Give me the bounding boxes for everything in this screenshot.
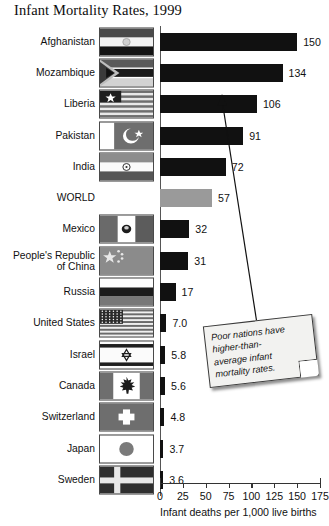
flag-japan-icon bbox=[99, 434, 154, 463]
row-label: Canada bbox=[0, 380, 95, 391]
x-axis-label: Infant deaths per 1,000 live births bbox=[160, 506, 317, 518]
flag-afghanistan-icon bbox=[99, 27, 154, 56]
row-label: Mozambique bbox=[0, 67, 95, 78]
bar-value-label: 72 bbox=[232, 161, 244, 173]
flag-china-icon bbox=[99, 246, 154, 275]
axis-tick bbox=[297, 483, 298, 488]
axis-tick-label: 100 bbox=[243, 490, 261, 502]
bar-value-label: 5.8 bbox=[171, 349, 186, 361]
row-label: Japan bbox=[0, 443, 95, 454]
row-label: Sweden bbox=[0, 474, 95, 485]
flag-united-states-icon bbox=[99, 309, 154, 338]
bar bbox=[160, 408, 164, 426]
row-label: United States bbox=[0, 318, 95, 329]
bar-value-label: 57 bbox=[218, 192, 230, 204]
chart-row: Liberia106 bbox=[0, 89, 326, 120]
flag-liberia-icon bbox=[99, 90, 154, 119]
bar bbox=[160, 158, 226, 176]
chart-row: Pakistan91 bbox=[0, 120, 326, 151]
bar-value-label: 106 bbox=[263, 98, 281, 110]
row-label: Switzerland bbox=[0, 412, 95, 423]
flag-switzerland-icon bbox=[99, 403, 154, 432]
bar-value-label: 134 bbox=[289, 67, 307, 79]
row-label: Liberia bbox=[0, 99, 95, 110]
axis-tick bbox=[251, 483, 252, 488]
axis-tick bbox=[229, 483, 230, 488]
flag-mozambique-icon bbox=[99, 58, 154, 87]
flag-israel-icon bbox=[99, 340, 154, 369]
row-label: WORLD bbox=[0, 192, 95, 203]
axis-tick bbox=[206, 483, 207, 488]
bar-value-label: 7.0 bbox=[172, 317, 187, 329]
axis-tick-label: 75 bbox=[223, 490, 235, 502]
chart-row: People's Republic of China31 bbox=[0, 245, 326, 276]
flag-canada-icon bbox=[99, 371, 154, 400]
bar bbox=[160, 64, 283, 82]
bar-value-label: 17 bbox=[182, 286, 194, 298]
row-label: Mexico bbox=[0, 224, 95, 235]
axis-tick-label: 175 bbox=[311, 490, 329, 502]
row-label: India bbox=[0, 161, 95, 172]
chart-row: United States7.0 bbox=[0, 308, 326, 339]
bar bbox=[160, 220, 189, 238]
row-label: People's Republic of China bbox=[0, 249, 95, 272]
bar bbox=[160, 314, 166, 332]
bar-value-label: 5.6 bbox=[171, 380, 186, 392]
bar bbox=[160, 189, 212, 207]
bar bbox=[160, 346, 165, 364]
chart-row: Japan3.7 bbox=[0, 433, 326, 464]
bar bbox=[160, 283, 176, 301]
axis-tick-label: 125 bbox=[265, 490, 283, 502]
chart-row: WORLD57 bbox=[0, 183, 326, 214]
flag-russia-icon bbox=[99, 278, 154, 307]
row-label: Israel bbox=[0, 349, 95, 360]
bar-value-label: 91 bbox=[249, 130, 261, 142]
chart-row: Mexico32 bbox=[0, 214, 326, 245]
flag-india-icon bbox=[99, 152, 154, 181]
chart-row: India72 bbox=[0, 151, 326, 182]
bar bbox=[160, 440, 163, 458]
bar-value-label: 150 bbox=[303, 36, 321, 48]
bar-value-label: 4.8 bbox=[170, 411, 185, 423]
bar-value-label: 3.7 bbox=[169, 443, 184, 455]
row-label: Afghanistan bbox=[0, 36, 95, 47]
row-label: Pakistan bbox=[0, 130, 95, 141]
axis-tick-label: 0 bbox=[157, 490, 163, 502]
chart-row: Afghanistan150 bbox=[0, 26, 326, 57]
bar bbox=[160, 95, 257, 113]
bar bbox=[160, 127, 243, 145]
bar bbox=[160, 377, 165, 395]
bar bbox=[160, 33, 297, 51]
bar-value-label: 31 bbox=[194, 255, 206, 267]
axis-tick-label: 150 bbox=[288, 490, 306, 502]
chart-row: Canada5.6 bbox=[0, 370, 326, 401]
chart-row: Mozambique134 bbox=[0, 57, 326, 88]
chart-row: Switzerland4.8 bbox=[0, 402, 326, 433]
flag-mexico-icon bbox=[99, 215, 154, 244]
bar bbox=[160, 252, 188, 270]
axis-tick-label: 25 bbox=[177, 490, 189, 502]
flag-sweden-icon bbox=[99, 465, 154, 494]
axis-tick bbox=[274, 483, 275, 488]
axis-end-cap bbox=[320, 478, 321, 484]
chart-row: Russia17 bbox=[0, 276, 326, 307]
bar-value-label: 32 bbox=[195, 223, 207, 235]
axis-tick-label: 50 bbox=[200, 490, 212, 502]
flag-pakistan-icon bbox=[99, 121, 154, 150]
plot-area: Afghanistan150Mozambique134Liberia106Pak… bbox=[0, 26, 326, 496]
axis-tick bbox=[183, 483, 184, 488]
axis-end-cap bbox=[160, 478, 161, 484]
page-title: Infant Mortality Rates, 1999 bbox=[14, 2, 182, 19]
row-label: Russia bbox=[0, 286, 95, 297]
chart-row: Israel5.8 bbox=[0, 339, 326, 370]
